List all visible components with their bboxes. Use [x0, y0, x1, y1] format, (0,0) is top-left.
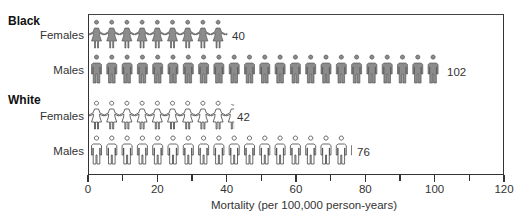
male-figure-icon — [137, 55, 147, 83]
x-tick-label: 20 — [151, 183, 164, 195]
row-label-white-females: Females — [4, 110, 84, 122]
x-tick-major — [157, 175, 159, 182]
female-figure-icon — [104, 101, 119, 129]
male-figure-icon — [382, 55, 392, 83]
male-figure-icon — [290, 55, 300, 83]
female-figure-icon — [150, 20, 165, 48]
male-figure-icon — [306, 55, 316, 83]
female-figure-icon — [119, 20, 134, 48]
male-figure-icon — [245, 55, 255, 83]
male-figure-icon — [168, 55, 178, 83]
male-figure-icon — [321, 55, 331, 83]
value-label-black-females: 40 — [232, 30, 245, 42]
male-figure-icon — [199, 55, 209, 83]
male-figure-icon — [260, 136, 270, 164]
female-figure-icon — [211, 20, 226, 48]
x-tick-major — [87, 175, 89, 182]
x-tick-major — [503, 175, 505, 182]
female-figure-icon — [135, 101, 150, 129]
male-figure-icon — [214, 55, 224, 83]
male-figure-icon — [137, 136, 147, 164]
x-tick-label: 0 — [85, 183, 91, 195]
x-tick-label: 80 — [359, 183, 372, 195]
female-figure-icon — [180, 101, 195, 129]
male-figure-icon — [275, 136, 285, 164]
value-label-black-males: 102 — [447, 66, 466, 78]
row-label-black-females: Females — [4, 29, 84, 41]
male-figure-icon — [321, 136, 331, 164]
male-figure-icon — [107, 136, 117, 164]
x-tick-minor — [122, 175, 124, 181]
male-figure-icon — [199, 136, 209, 164]
male-figure-icon — [92, 55, 102, 83]
female-figure-icon — [165, 20, 180, 48]
male-figure-icon — [214, 136, 224, 164]
male-figure-icon — [245, 136, 255, 164]
x-tick-minor — [399, 175, 401, 181]
male-figure-icons — [89, 139, 357, 165]
female-figure-icon — [180, 20, 195, 48]
male-figure-icon — [229, 136, 239, 164]
x-tick-label: 60 — [290, 183, 303, 195]
male-figure-icon — [168, 136, 178, 164]
x-tick-label: 40 — [220, 183, 233, 195]
male-figure-icon — [306, 136, 316, 164]
female-figure-icon — [135, 20, 150, 48]
female-figure-icon — [211, 101, 226, 129]
male-figure-icon — [153, 136, 163, 164]
x-tick-label: 100 — [425, 183, 444, 195]
male-figure-icon — [290, 136, 300, 164]
female-figure-icon — [195, 101, 210, 129]
x-tick-label: 120 — [494, 183, 513, 195]
group-label-white: White — [8, 93, 41, 107]
female-figure-icon — [89, 101, 104, 129]
male-figure-icon — [367, 55, 377, 83]
x-tick-minor — [261, 175, 263, 181]
female-figure-icon — [150, 101, 165, 129]
male-figure-icon — [122, 55, 132, 83]
female-figure-icons — [89, 23, 232, 49]
value-label-white-females: 42 — [237, 111, 250, 123]
male-figure-icon — [229, 55, 239, 83]
male-figure-icon — [398, 55, 408, 83]
x-tick-major — [295, 175, 297, 182]
male-figure-icon — [336, 136, 346, 164]
female-figure-icon — [195, 20, 210, 48]
female-figure-icon — [119, 101, 134, 129]
male-figure-icon — [107, 55, 117, 83]
group-label-black: Black — [8, 14, 40, 28]
male-figure-icon — [275, 55, 285, 83]
male-figure-icon — [92, 136, 102, 164]
row-label-black-males: Males — [4, 64, 84, 76]
female-figure-icons — [89, 104, 239, 130]
x-tick-major — [365, 175, 367, 182]
male-figure-icons — [89, 58, 447, 84]
male-figure-icon — [413, 55, 423, 83]
male-figure-icon — [352, 55, 362, 83]
row-label-white-males: Males — [4, 145, 84, 157]
male-figure-icon — [183, 55, 193, 83]
male-figure-icon — [336, 55, 346, 83]
x-tick-major — [434, 175, 436, 182]
male-figure-icon — [260, 55, 270, 83]
male-figure-icon — [183, 136, 193, 164]
male-figure-icon — [153, 55, 163, 83]
x-axis-label: Mortality (per 100,000 person-years) — [211, 199, 397, 211]
x-tick-minor — [191, 175, 193, 181]
value-label-white-males: 76 — [357, 146, 370, 158]
x-tick-major — [226, 175, 228, 182]
x-tick-minor — [330, 175, 332, 181]
female-figure-icon — [89, 20, 104, 48]
male-figure-icon — [428, 55, 438, 83]
x-tick-minor — [469, 175, 471, 181]
female-figure-icon — [104, 20, 119, 48]
female-figure-icon — [165, 101, 180, 129]
male-figure-icon — [122, 136, 132, 164]
